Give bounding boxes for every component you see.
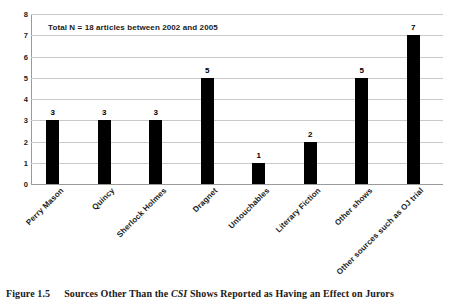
figure-container: 876543210 33351257 Total N = 18 articles… bbox=[0, 0, 450, 302]
bar bbox=[46, 120, 59, 184]
y-tick-label: 6 bbox=[6, 54, 28, 62]
x-category-label: Literary Fiction bbox=[274, 186, 322, 234]
x-category-label: Perry Mason bbox=[24, 186, 65, 227]
gridline-3 bbox=[31, 120, 443, 121]
caption-number: Figure 1.5 bbox=[6, 288, 50, 299]
y-tick-label: 4 bbox=[6, 96, 28, 104]
bar-value-label: 7 bbox=[398, 24, 428, 32]
y-tick-label: 5 bbox=[6, 75, 28, 83]
x-category-label: Quincy bbox=[91, 186, 117, 212]
caption-emphasis: CSI bbox=[171, 288, 187, 299]
x-category-label: Other shows bbox=[333, 186, 374, 227]
caption-text-before: Sources Other Than the bbox=[64, 288, 171, 299]
y-axis-tick-labels: 876543210 bbox=[0, 14, 28, 185]
gridline-0 bbox=[31, 184, 443, 185]
bar bbox=[355, 78, 368, 184]
caption-text-after: Shows Reported as Having an Effect on Ju… bbox=[187, 288, 394, 299]
gridline-5 bbox=[31, 78, 443, 79]
x-category-label: Sherlock Holmes bbox=[115, 186, 168, 239]
gridline-6 bbox=[31, 57, 443, 58]
bar-value-label: 5 bbox=[347, 67, 377, 75]
gridline-8 bbox=[31, 14, 443, 15]
y-tick-label: 0 bbox=[6, 181, 28, 189]
bar bbox=[149, 120, 162, 184]
y-tick-label: 8 bbox=[6, 11, 28, 19]
bar bbox=[304, 142, 317, 185]
x-axis-category-labels: Perry MasonQuincySherlock HolmesDragnetU… bbox=[31, 186, 443, 296]
plot-area: 33351257 bbox=[31, 14, 443, 184]
bar bbox=[201, 78, 214, 184]
bar-value-label: 3 bbox=[38, 109, 68, 117]
gridline-2 bbox=[31, 142, 443, 143]
bar-value-label: 1 bbox=[244, 152, 274, 160]
gridline-4 bbox=[31, 99, 443, 100]
bar-value-label: 3 bbox=[141, 109, 171, 117]
y-tick-label: 1 bbox=[6, 160, 28, 168]
figure-caption: Figure 1.5Sources Other Than the CSI Sho… bbox=[6, 288, 446, 299]
bar-value-label: 5 bbox=[192, 67, 222, 75]
bar-value-label: 3 bbox=[89, 109, 119, 117]
bar bbox=[98, 120, 111, 184]
gridline-7 bbox=[31, 35, 443, 36]
chart-annotation: Total N = 18 articles between 2002 and 2… bbox=[48, 23, 218, 32]
x-category-label: Other sources such as OJ trial bbox=[335, 186, 426, 277]
x-category-label: Dragnet bbox=[191, 186, 219, 214]
bar bbox=[252, 163, 265, 184]
x-category-label: Untouchables bbox=[226, 186, 271, 231]
y-tick-label: 7 bbox=[6, 33, 28, 41]
bar bbox=[407, 35, 420, 184]
bar-value-label: 2 bbox=[295, 131, 325, 139]
y-tick-label: 3 bbox=[6, 118, 28, 126]
y-tick-label: 2 bbox=[6, 139, 28, 147]
gridline-1 bbox=[31, 163, 443, 164]
